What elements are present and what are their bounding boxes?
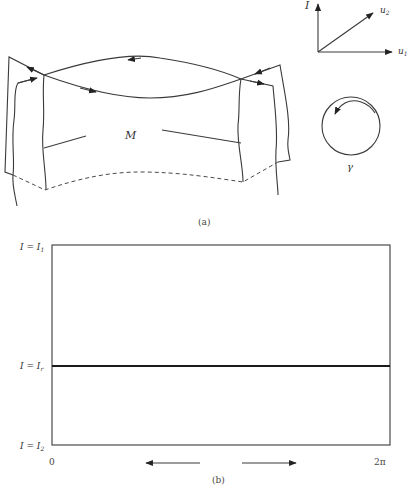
right-interior-line bbox=[162, 130, 241, 143]
right-arrow-in-icon bbox=[255, 68, 270, 74]
label-i-equals-i1: I = I1 bbox=[19, 242, 44, 253]
left-interior-line bbox=[44, 136, 86, 148]
axis-i-label: I bbox=[304, 0, 310, 12]
right-inner-line bbox=[241, 79, 278, 195]
gamma-label: γ bbox=[347, 161, 353, 172]
phase-rectangle bbox=[52, 245, 390, 445]
axis-u1-label: u1 bbox=[398, 46, 408, 57]
right-outer-frame bbox=[241, 65, 290, 162]
label-i-equals-i2: I = I2 bbox=[19, 441, 44, 452]
left-outer-frame bbox=[5, 57, 44, 175]
upper-orbit-curve bbox=[44, 56, 241, 79]
right-boundary bbox=[238, 65, 290, 195]
dashed-bottom-boundary bbox=[13, 162, 278, 190]
label-i-equals-ir: I = Ir bbox=[19, 361, 44, 372]
axis-u2-arrow-icon bbox=[318, 13, 373, 52]
figure-canvas: M I u1 u2 γ (a) I = I1 I = Ir I = I2 0 2… bbox=[0, 0, 418, 491]
x-label-two-pi: 2π bbox=[374, 457, 386, 467]
left-section-line bbox=[43, 75, 46, 190]
coordinate-axes: I u1 u2 bbox=[304, 0, 408, 57]
circle-outline bbox=[322, 97, 380, 155]
manifold-label: M bbox=[124, 129, 137, 142]
figure-a: M I u1 u2 γ (a) bbox=[5, 0, 408, 227]
right-arrow-out-icon bbox=[250, 81, 264, 84]
orbit-curves bbox=[44, 56, 241, 98]
figure-b: I = I1 I = Ir I = I2 0 2π (b) bbox=[19, 242, 390, 485]
left-arrow-up-icon bbox=[27, 67, 44, 75]
caption-b: (b) bbox=[212, 475, 225, 485]
upper-orbit-arrow-icon bbox=[128, 58, 141, 60]
x-label-zero: 0 bbox=[49, 457, 55, 467]
caption-a: (a) bbox=[198, 217, 210, 227]
axis-u2-label: u2 bbox=[380, 5, 390, 16]
left-arrow-in-icon bbox=[18, 78, 37, 83]
lower-orbit-curve bbox=[44, 75, 241, 98]
left-boundary bbox=[5, 57, 46, 206]
gamma-circle: γ bbox=[322, 97, 380, 172]
left-inner-wavy-line bbox=[13, 79, 33, 206]
right-section-line bbox=[238, 79, 243, 182]
